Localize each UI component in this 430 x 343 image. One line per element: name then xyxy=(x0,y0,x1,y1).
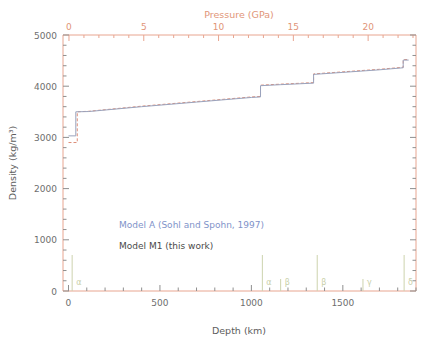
plot-svg: 05101520 Pressure (GPa) 0100020003000400… xyxy=(0,0,430,343)
phase-label: β xyxy=(285,278,290,287)
left-tick-label: 2000 xyxy=(34,184,57,194)
top-tick-label: 10 xyxy=(213,22,225,32)
phase-label: β xyxy=(321,278,326,287)
phase-label: α xyxy=(76,278,81,287)
bottom-tick-label: 0 xyxy=(66,298,72,308)
top-tick-label: 15 xyxy=(288,22,299,32)
plot-frame xyxy=(63,35,416,291)
top-axis-pressure: 05101520 xyxy=(66,22,413,41)
phase-label: α xyxy=(266,278,271,287)
legend-entry-model-m1: Model M1 (this work) xyxy=(119,241,213,251)
left-axis-density: 010002000300040005000 xyxy=(34,31,69,297)
phase-label: γ xyxy=(367,278,372,287)
left-tick-label: 3000 xyxy=(34,133,57,143)
left-tick-label: 4000 xyxy=(34,82,57,92)
left-axis-title: Density (kg/m³) xyxy=(7,126,18,200)
series-model-a-curve xyxy=(68,60,408,143)
bottom-tick-label: 1000 xyxy=(240,298,263,308)
phase-transition-markers: ααββγδ xyxy=(72,255,413,291)
bottom-tick-label: 500 xyxy=(151,298,168,308)
top-tick-label: 0 xyxy=(66,22,72,32)
left-tick-label: 0 xyxy=(51,287,57,297)
bottom-tick-label: 1500 xyxy=(331,298,354,308)
bottom-axis-title: Depth (km) xyxy=(212,325,266,336)
top-tick-label: 5 xyxy=(141,22,147,32)
left-tick-label: 5000 xyxy=(34,31,57,41)
density-depth-figure: 05101520 Pressure (GPa) 0100020003000400… xyxy=(0,0,430,343)
top-axis-title: Pressure (GPa) xyxy=(204,9,273,20)
phase-label: δ xyxy=(408,278,413,287)
right-axis-ticks xyxy=(410,35,416,291)
legend-entry-model-a: Model A (Sohl and Spohn, 1997) xyxy=(119,220,264,230)
top-tick-label: 20 xyxy=(362,22,374,32)
left-tick-label: 1000 xyxy=(34,235,57,245)
